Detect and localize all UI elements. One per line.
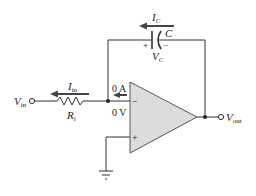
vc-label: VC xyxy=(152,50,164,64)
vin-terminal xyxy=(29,98,34,103)
junction-output xyxy=(203,115,207,119)
junction-inverting xyxy=(106,99,110,103)
capacitor-label: C xyxy=(165,27,173,39)
ri-label: Ri xyxy=(66,109,76,123)
capacitor-plus-sign: + xyxy=(143,40,148,50)
resistor-ri xyxy=(57,97,83,105)
iin-label: Iin xyxy=(67,80,78,94)
wire-noninverting-to-ground xyxy=(106,137,130,171)
capacitor-minus-sign: − xyxy=(163,40,168,50)
vin-label: Vin xyxy=(14,95,27,109)
ic-label: IC xyxy=(151,11,161,25)
opamp-inverting-sign: − xyxy=(132,96,138,107)
vout-terminal xyxy=(218,114,223,119)
ground-icon xyxy=(99,171,113,179)
opamp-triangle xyxy=(130,82,197,153)
opamp-noninverting-sign: + xyxy=(132,132,138,143)
integrator-circuit: Vin Vout Iin Ri IC C VC + − 0 A 0 V − + xyxy=(0,0,256,196)
zero-current-label: 0 A xyxy=(112,83,127,94)
zero-voltage-label: 0 V xyxy=(112,107,127,118)
vout-label: Vout xyxy=(226,111,242,125)
